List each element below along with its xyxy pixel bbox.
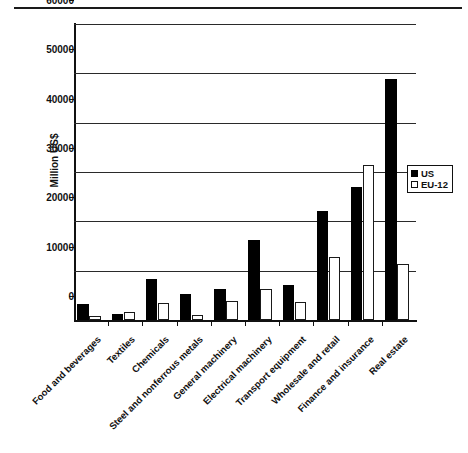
x-axis-category-label: Steel and nonferrous metals <box>0 334 205 453</box>
gridline <box>74 123 416 124</box>
bar-chart-figure: Million US$ 0100002000030000400005000060… <box>0 0 468 453</box>
y-axis-tick-mark <box>69 0 74 1</box>
x-axis-category-label: General machinery <box>19 334 239 453</box>
x-axis-tick-mark <box>142 321 143 326</box>
y-axis-tick-mark <box>69 197 74 198</box>
x-axis-tick-mark <box>211 321 212 326</box>
bar-us <box>146 279 158 320</box>
x-axis-category-label: Textiles <box>0 334 137 453</box>
y-axis-tick-label: 30000 <box>12 143 74 154</box>
bar-us <box>385 79 397 320</box>
y-axis-tick-mark <box>69 296 74 297</box>
y-axis-tick-mark <box>69 99 74 100</box>
y-axis-tick-label: 40000 <box>12 93 74 104</box>
gridline <box>74 24 416 25</box>
x-axis-tick-mark <box>279 321 280 326</box>
x-axis-tick-mark <box>177 321 178 326</box>
bar-eu12 <box>124 312 136 320</box>
x-axis-tick-mark <box>348 321 349 326</box>
x-axis-tick-mark <box>382 321 383 326</box>
bar-us <box>112 314 124 320</box>
y-axis-tick-mark <box>69 148 74 149</box>
legend-label-eu12: EU-12 <box>421 179 448 190</box>
x-axis-category-label: Electrical machinery <box>54 334 274 453</box>
bar-us <box>214 289 226 320</box>
x-axis-category-label: Finance and insurance <box>156 334 376 453</box>
bar-eu12 <box>226 301 238 320</box>
bar-eu12 <box>329 257 341 320</box>
x-axis-category-label: Food and beverages <box>0 334 103 453</box>
gridline <box>74 73 416 74</box>
bar-eu12 <box>363 165 375 320</box>
bar-eu12 <box>158 303 170 320</box>
x-axis-category-label: Chemicals <box>0 334 171 453</box>
bar-us <box>180 294 192 320</box>
x-axis-tick-mark <box>245 321 246 326</box>
y-axis-tick-mark <box>69 247 74 248</box>
bar-us <box>283 285 295 320</box>
bar-us <box>317 211 329 320</box>
y-axis-tick-label: 10000 <box>12 241 74 252</box>
bar-us <box>351 187 363 320</box>
filled-square-icon <box>411 170 418 177</box>
x-axis-category-label: Real estate <box>190 334 410 453</box>
y-axis-ticks: 0100002000030000400005000060000 <box>0 0 74 296</box>
chart-legend: US EU-12 <box>407 165 453 193</box>
x-axis-tick-mark <box>313 321 314 326</box>
outlined-square-icon <box>411 181 418 188</box>
y-axis-tick-label: 60000 <box>12 0 74 6</box>
bar-eu12 <box>397 264 409 320</box>
bar-eu12 <box>89 316 101 320</box>
bar-us <box>248 240 260 320</box>
legend-label-us: US <box>421 168 434 179</box>
bar-eu12 <box>295 302 307 320</box>
x-axis-tick-mark <box>108 321 109 326</box>
top-divider-rule <box>14 7 462 9</box>
bar-eu12 <box>192 315 204 320</box>
y-axis-tick-label: 0 <box>12 291 74 302</box>
bar-eu12 <box>260 289 272 320</box>
legend-item-us: US <box>411 168 448 179</box>
y-axis-tick-mark <box>69 49 74 50</box>
legend-item-eu12: EU-12 <box>411 179 448 190</box>
bar-us <box>77 304 89 320</box>
plot-area <box>74 24 416 320</box>
y-axis-tick-label: 20000 <box>12 192 74 203</box>
y-axis-tick-label: 50000 <box>12 44 74 55</box>
x-axis-category-label: Transport equipment <box>88 334 308 453</box>
x-axis-category-label: Wholesale and retail <box>122 334 342 453</box>
